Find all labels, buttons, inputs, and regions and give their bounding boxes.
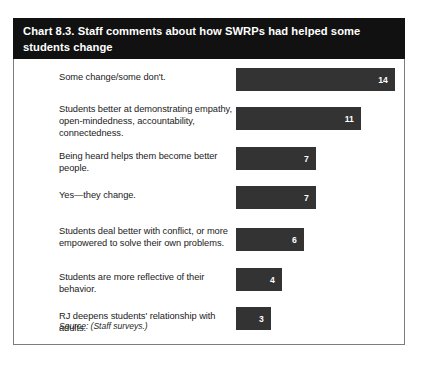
bar-segment: 6	[236, 228, 304, 251]
bar-value-label: 6	[292, 235, 297, 245]
chart-row: Students are more reflective of their be…	[14, 261, 404, 299]
bar-value-label: 7	[304, 193, 309, 203]
bar-segment: 4	[236, 268, 282, 291]
chart-row: Some change/some don't. 14	[14, 59, 404, 95]
chart-title: Chart 8.3. Staff comments about how SWRP…	[23, 24, 393, 55]
chart-row: Students deal better with conflict, or m…	[14, 217, 404, 261]
bar-category-label: Students deal better with conflict, or m…	[59, 225, 237, 249]
bar-category-label: Being heard helps them become better peo…	[59, 150, 237, 174]
chart-row: Students better at demonstrating empathy…	[14, 95, 404, 139]
chart-plot-area: Some change/some don't. 14 Students bett…	[14, 59, 404, 344]
chart-row: RJ deepens students' relationship with a…	[14, 299, 404, 337]
bar-category-label: Students are more reflective of their be…	[59, 271, 237, 295]
bar-segment: 11	[236, 107, 361, 130]
bar-category-label: Some change/some don't.	[59, 71, 237, 83]
bar-segment: 3	[236, 307, 271, 330]
bar-value-label: 7	[304, 154, 309, 164]
bar-segment: 14	[236, 68, 395, 91]
bar-value-label: 14	[378, 75, 388, 85]
chart-row: Yes—they change. 7	[14, 178, 404, 217]
bar-value-label: 4	[270, 275, 275, 285]
chart-source-note: Source: (Staff surveys.)	[59, 321, 148, 331]
bar-category-label: Yes—they change.	[59, 189, 237, 201]
bar-segment: 7	[236, 186, 316, 209]
chart-title-bar: Chart 8.3. Staff comments about how SWRP…	[13, 18, 405, 59]
bar-category-label: Students better at demonstrating empathy…	[59, 103, 237, 140]
bar-value-label: 11	[345, 114, 354, 124]
chart-row: Being heard helps them become better peo…	[14, 139, 404, 178]
chart-figure: Chart 8.3. Staff comments about how SWRP…	[13, 18, 405, 345]
bar-value-label: 3	[259, 314, 264, 324]
bar-segment: 7	[236, 147, 316, 170]
